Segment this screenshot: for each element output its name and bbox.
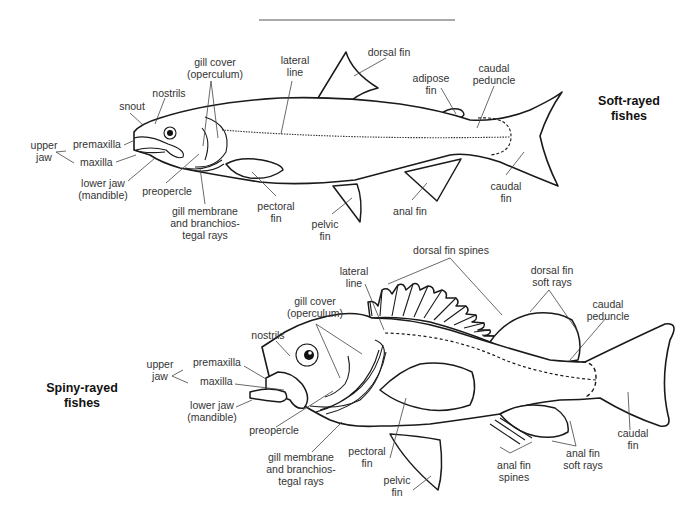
- label-caudal-peduncle-2: peduncle: [473, 74, 516, 86]
- label-caudal-fin: caudal: [618, 427, 649, 439]
- soft-rayed-title: Soft-rayed: [598, 94, 660, 108]
- soft-pelvic-fin: [333, 184, 361, 222]
- label-caudal-fin-2: fin: [500, 192, 511, 204]
- spiny-rayed-title: Spiny-rayed: [46, 381, 118, 395]
- spiny-lower-jaw: [250, 389, 287, 402]
- spiny-rayed-title-line2: fishes: [64, 396, 100, 410]
- label-gill-membrane: gill membrane: [268, 451, 334, 463]
- label-pelvic-fin-2: fin: [319, 230, 330, 242]
- label-nostrils: nostrils: [251, 329, 284, 341]
- label-caudal-fin-2: fin: [627, 439, 638, 451]
- label-caudal-fin: caudal: [491, 180, 522, 192]
- spiny-pupil: [304, 350, 314, 360]
- label-pectoral-fin-2: fin: [361, 457, 372, 469]
- soft-dorsal-fin: [318, 52, 378, 100]
- label-dorsal-fin: dorsal fin: [368, 46, 411, 58]
- label-gill-membrane-3: tegal rays: [278, 475, 324, 487]
- label-pelvic-fin: pelvic: [384, 474, 411, 486]
- label-premaxilla: premaxilla: [193, 356, 241, 368]
- label-pelvic-fin: pelvic: [312, 218, 339, 230]
- label-adipose-fin: adipose: [413, 72, 450, 84]
- label-premaxilla: premaxilla: [73, 138, 121, 150]
- label-upper-jaw-2: jaw: [35, 151, 52, 163]
- label-gill-cover: gill cover: [294, 295, 336, 307]
- label-snout: snout: [119, 100, 145, 112]
- soft-pupil: [167, 130, 173, 136]
- label-upper-jaw: upper: [147, 358, 174, 370]
- label-maxilla: maxilla: [80, 156, 113, 168]
- label-gill-membrane-2: and branchios-: [170, 217, 240, 229]
- label-dorsal-soft-rays: dorsal fin: [531, 264, 574, 276]
- label-pectoral-fin: pectoral: [348, 445, 385, 457]
- label-dorsal-soft-rays-2: soft rays: [532, 276, 572, 288]
- label-caudal-peduncle: caudal: [593, 298, 624, 310]
- label-nostrils: nostrils: [152, 87, 185, 99]
- label-lateral-line: lateral: [340, 265, 369, 277]
- label-caudal-peduncle: caudal: [479, 62, 510, 74]
- label-pectoral-fin-2: fin: [270, 212, 281, 224]
- label-lower-jaw: lower jaw: [81, 177, 125, 189]
- label-preopercle: preopercle: [142, 185, 192, 197]
- label-gill-cover-2: (operculum): [287, 307, 343, 319]
- label-lateral-line-2: line: [346, 277, 363, 289]
- label-caudal-peduncle-2: peduncle: [587, 310, 630, 322]
- label-lower-jaw-2: (mandible): [187, 411, 237, 423]
- label-gill-cover: gill cover: [194, 56, 236, 68]
- label-pelvic-fin-2: fin: [391, 486, 402, 498]
- label-anal-soft-rays-2: soft rays: [563, 459, 603, 471]
- label-anal-fin-spines: anal fin: [497, 459, 531, 471]
- label-gill-membrane-3: tegal rays: [182, 229, 228, 241]
- label-preopercle: preopercle: [249, 424, 299, 436]
- label-lateral-line: lateral: [281, 54, 310, 66]
- label-adipose-fin-2: fin: [425, 84, 436, 96]
- label-anal-soft-rays: anal fin: [566, 447, 600, 459]
- label-lower-jaw-2: (mandible): [78, 189, 128, 201]
- spiny-pupil-highlight: [308, 351, 312, 355]
- spiny-anal-fin: [500, 405, 568, 437]
- fish-anatomy-diagram: Soft-rayed fishes snout nostrils gill co…: [0, 0, 700, 525]
- label-anal-fin-spines-2: spines: [499, 471, 529, 483]
- label-lateral-line-2: line: [287, 66, 304, 78]
- label-dorsal-fin-spines: dorsal fin spines: [413, 244, 489, 256]
- label-maxilla: maxilla: [200, 375, 233, 387]
- label-pectoral-fin: pectoral: [257, 200, 294, 212]
- label-upper-jaw-2: jaw: [151, 370, 168, 382]
- label-upper-jaw: upper: [31, 139, 58, 151]
- label-gill-membrane-2: and branchios-: [266, 463, 336, 475]
- label-anal-fin: anal fin: [393, 205, 427, 217]
- label-gill-cover-2: (operculum): [187, 68, 243, 80]
- label-gill-membrane: gill membrane: [172, 205, 238, 217]
- soft-rayed-title-line2: fishes: [611, 109, 647, 123]
- label-lower-jaw: lower jaw: [190, 399, 234, 411]
- soft-body-outline: [134, 92, 562, 186]
